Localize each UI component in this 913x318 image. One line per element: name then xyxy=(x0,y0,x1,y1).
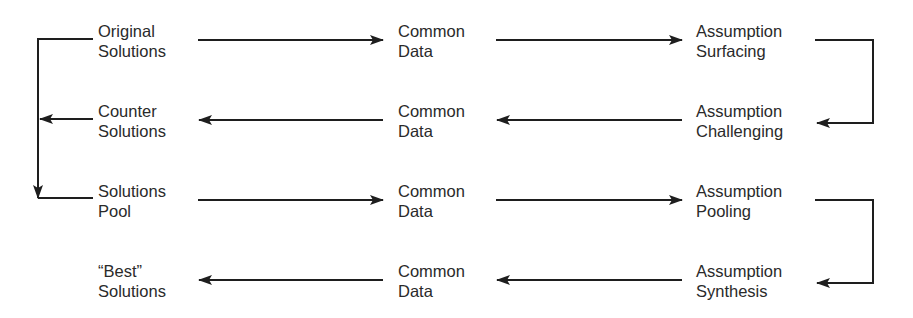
node-label-line2: Synthesis xyxy=(696,281,782,301)
node-label-line2: Pooling xyxy=(696,201,782,221)
node-label-line2: Data xyxy=(398,281,465,301)
node-label-line2: Data xyxy=(398,201,465,221)
node-solutions-pool: Solutions Pool xyxy=(98,181,166,221)
node-label-line1: Original xyxy=(98,21,166,41)
node-label-line2: Surfacing xyxy=(696,41,782,61)
node-label-line2: Data xyxy=(398,41,465,61)
node-label-line1: Assumption xyxy=(696,21,782,41)
node-assumption-pooling: Assumption Pooling xyxy=(696,181,782,221)
node-common-data-3: Common Data xyxy=(398,181,465,221)
node-label-line1: Solutions xyxy=(98,181,166,201)
node-label-line1: “Best” xyxy=(98,261,166,281)
node-label-line2: Challenging xyxy=(696,121,783,141)
node-label-line1: Assumption xyxy=(696,261,782,281)
node-assumption-synthesis: Assumption Synthesis xyxy=(696,261,782,301)
arrow-pooling-to-synthesis xyxy=(815,200,873,283)
node-label-line1: Common xyxy=(398,261,465,281)
node-assumption-surfacing: Assumption Surfacing xyxy=(696,21,782,61)
node-label-line1: Common xyxy=(398,181,465,201)
node-assumption-challenging: Assumption Challenging xyxy=(696,101,783,141)
arrow-surfacing-to-challenging xyxy=(815,40,873,123)
node-common-data-2: Common Data xyxy=(398,101,465,141)
node-counter-solutions: Counter Solutions xyxy=(98,101,166,141)
node-common-data-4: Common Data xyxy=(398,261,465,301)
node-label-line2: Solutions xyxy=(98,121,166,141)
node-label-line1: Common xyxy=(398,101,465,121)
node-label-line1: Assumption xyxy=(696,101,783,121)
node-label-line1: Assumption xyxy=(696,181,782,201)
node-best-solutions: “Best” Solutions xyxy=(98,261,166,301)
node-label-line1: Common xyxy=(398,21,465,41)
node-label-line2: Solutions xyxy=(98,41,166,61)
node-label-line2: Data xyxy=(398,121,465,141)
node-original-solutions: Original Solutions xyxy=(98,21,166,61)
node-label-line2: Solutions xyxy=(98,281,166,301)
node-common-data-1: Common Data xyxy=(398,21,465,61)
node-label-line2: Pool xyxy=(98,201,166,221)
node-label-line1: Counter xyxy=(98,101,166,121)
